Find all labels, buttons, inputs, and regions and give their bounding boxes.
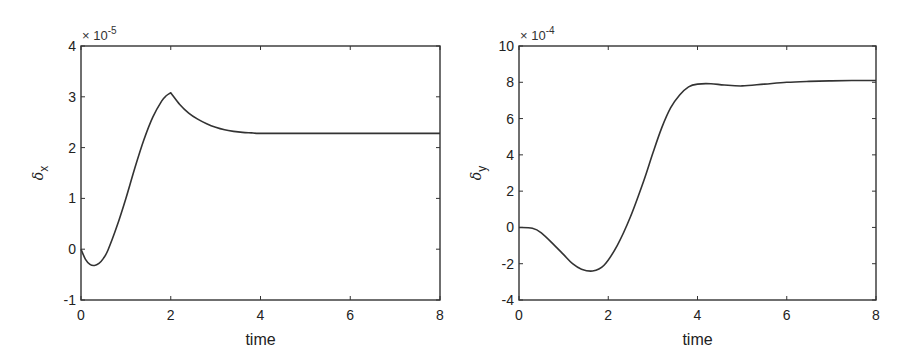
x-tick-label: 8 — [436, 307, 444, 323]
y-tick-label: 4 — [506, 147, 514, 163]
x-tick-label: 6 — [346, 307, 354, 323]
chart-delta-x-canvas: 02468-101234× 10-5timeδx — [0, 0, 455, 363]
x-tick-label: 0 — [515, 307, 523, 323]
y-tick-label: 4 — [68, 38, 76, 54]
y-tick-label: 2 — [506, 183, 514, 199]
chart-delta-y-canvas: 02468-4-20246810× 10-4timeδy — [456, 0, 911, 363]
y-tick-label: 0 — [68, 241, 76, 257]
y-tick-label: 0 — [506, 219, 514, 235]
series-line-delta-x — [81, 93, 440, 266]
x-tick-label: 8 — [872, 307, 880, 323]
y-tick-label: -2 — [502, 256, 515, 272]
y-scale-annotation: × 10-5 — [82, 25, 117, 43]
y-axis-title: δx — [30, 166, 51, 180]
x-tick-label: 2 — [604, 307, 612, 323]
x-tick-label: 4 — [694, 307, 702, 323]
y-tick-label: -4 — [502, 292, 515, 308]
x-tick-label: 6 — [783, 307, 791, 323]
x-axis-title: time — [682, 331, 712, 348]
y-tick-label: -1 — [64, 292, 77, 308]
series-line-delta-y — [519, 80, 876, 271]
x-tick-label: 0 — [77, 307, 85, 323]
x-tick-label: 2 — [167, 307, 175, 323]
chart-delta-y: 02468-4-20246810× 10-4timeδy — [456, 0, 911, 363]
chart-delta-x: 02468-101234× 10-5timeδx — [0, 0, 455, 363]
plot-area-frame — [81, 46, 440, 300]
y-tick-label: 2 — [68, 140, 76, 156]
x-axis-title: time — [245, 331, 275, 348]
y-axis-title: δy — [468, 166, 489, 180]
y-tick-label: 3 — [68, 89, 76, 105]
y-tick-label: 6 — [506, 111, 514, 127]
y-scale-annotation: × 10-4 — [520, 25, 555, 43]
x-tick-label: 4 — [257, 307, 265, 323]
y-tick-label: 8 — [506, 74, 514, 90]
y-tick-label: 10 — [498, 38, 514, 54]
y-tick-label: 1 — [68, 190, 76, 206]
